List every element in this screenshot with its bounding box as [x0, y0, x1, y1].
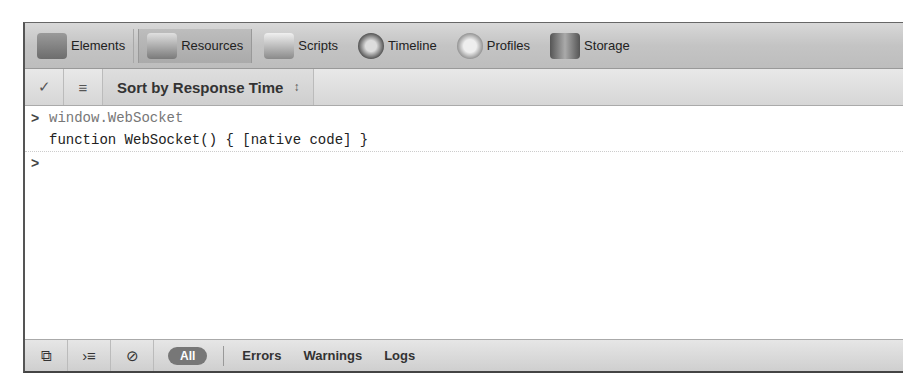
prompt-icon: > — [31, 110, 49, 126]
console-prompt-line[interactable]: > — [25, 152, 903, 174]
tab-label: Scripts — [298, 38, 338, 53]
console-icon: ›≡ — [82, 347, 96, 364]
sort-select[interactable]: Sort by Response Time ↕ — [103, 69, 314, 105]
checkmark-icon: ✓ — [38, 78, 51, 96]
filter-errors[interactable]: Errors — [242, 348, 281, 363]
filter-warnings[interactable]: Warnings — [303, 348, 362, 363]
console-command-line: > window.WebSocket — [25, 107, 903, 129]
list-icon: ≡ — [79, 79, 88, 96]
dock-toggle-button[interactable]: ⧉ — [25, 340, 68, 371]
filter-all[interactable]: All — [168, 347, 207, 365]
status-bar: ⧉ ›≡ ⊘ All Errors Warnings Logs — [25, 339, 903, 371]
timeline-icon — [358, 33, 384, 59]
command-text: window.WebSocket — [49, 110, 183, 126]
tab-label: Profiles — [487, 38, 530, 53]
tab-resources[interactable]: Resources — [138, 29, 252, 63]
tab-label: Storage — [584, 38, 630, 53]
select-arrows-icon: ↕ — [293, 80, 299, 94]
tab-label: Timeline — [388, 38, 437, 53]
scripts-icon — [264, 33, 294, 59]
enable-resource-tracking-button[interactable]: ✓ — [25, 69, 64, 105]
tab-timeline[interactable]: Timeline — [350, 29, 445, 63]
sort-label: Sort by Response Time — [117, 79, 283, 96]
tab-label: Resources — [181, 38, 243, 53]
storage-icon — [550, 33, 580, 59]
console-output[interactable]: > window.WebSocket function WebSocket() … — [25, 107, 903, 338]
resources-icon — [147, 33, 177, 59]
devtools-panel: Elements Resources Scripts Timeline Prof… — [23, 22, 903, 373]
panel-tab-bar: Elements Resources Scripts Timeline Prof… — [25, 23, 903, 69]
filter-divider — [223, 346, 224, 366]
elements-icon — [37, 33, 67, 59]
profiles-icon — [457, 33, 483, 59]
console-toggle-button[interactable]: ›≡ — [68, 340, 111, 371]
tab-elements[interactable]: Elements — [29, 29, 134, 63]
resources-toolbar: ✓ ≡ Sort by Response Time ↕ — [25, 69, 903, 106]
tab-profiles[interactable]: Profiles — [449, 29, 538, 63]
dock-icon: ⧉ — [41, 347, 52, 365]
filter-logs[interactable]: Logs — [384, 348, 415, 363]
prompt-icon: > — [31, 155, 49, 171]
tab-label: Elements — [71, 38, 125, 53]
toggle-list-button[interactable]: ≡ — [64, 69, 103, 105]
tab-storage[interactable]: Storage — [542, 29, 638, 63]
result-text: function WebSocket() { [native code] } — [49, 132, 368, 148]
clear-icon: ⊘ — [126, 347, 139, 365]
console-result-line: function WebSocket() { [native code] } — [25, 129, 903, 152]
clear-console-button[interactable]: ⊘ — [111, 340, 154, 371]
tab-scripts[interactable]: Scripts — [256, 29, 346, 63]
